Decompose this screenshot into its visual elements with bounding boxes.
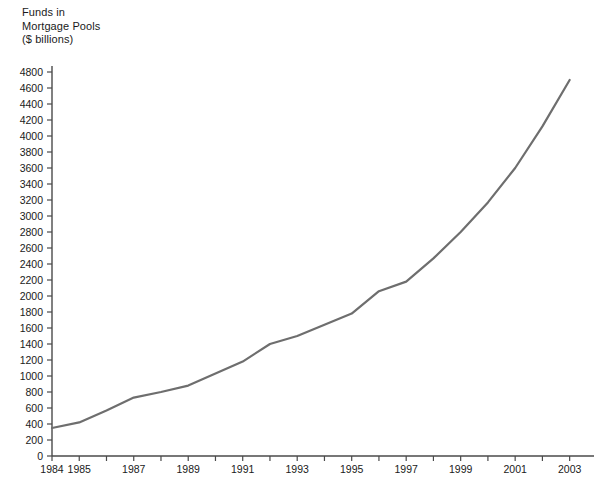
- chart-container: Funds in Mortgage Pools ($ billions) 020…: [0, 0, 598, 492]
- y-axis-tick-label: 0: [37, 450, 43, 462]
- data-series-group: [52, 80, 570, 428]
- y-axis-tick-label: 1000: [20, 370, 44, 382]
- x-axis-tick-label: 2003: [558, 463, 582, 475]
- y-axis-tick-label: 2600: [20, 242, 44, 254]
- data-series-line: [52, 80, 570, 428]
- line-chart-plot: 0200400600800100012001400160018002000220…: [0, 0, 598, 492]
- y-axis: 0200400600800100012001400160018002000220…: [20, 66, 52, 462]
- y-axis-tick-label: 2800: [20, 226, 44, 238]
- x-axis-tick-label: 1999: [449, 463, 473, 475]
- y-axis-tick-label: 1600: [20, 322, 44, 334]
- y-axis-tick-label: 4600: [20, 82, 44, 94]
- y-axis-tick-label: 4200: [20, 114, 44, 126]
- y-axis-tick-label: 2400: [20, 258, 44, 270]
- y-axis-tick-label: 3600: [20, 162, 44, 174]
- y-axis-tick-label: 3800: [20, 146, 44, 158]
- y-axis-tick-label: 1400: [20, 338, 44, 350]
- y-axis-tick-label: 200: [25, 434, 43, 446]
- y-axis-tick-label: 2000: [20, 290, 44, 302]
- y-axis-tick-label: 4800: [20, 66, 44, 78]
- x-axis-tick-label: 1984: [40, 463, 64, 475]
- y-axis-tick-label: 4000: [20, 130, 44, 142]
- y-axis-tick-label: 3000: [20, 210, 44, 222]
- x-axis-tick-label: 1993: [286, 463, 310, 475]
- y-axis-tick-label: 1200: [20, 354, 44, 366]
- x-axis-tick-label: 1991: [231, 463, 255, 475]
- y-axis-tick-label: 400: [25, 418, 43, 430]
- x-axis-tick-label: 2001: [503, 463, 527, 475]
- y-axis-tick-label: 3400: [20, 178, 44, 190]
- y-axis-tick-label: 2200: [20, 274, 44, 286]
- x-axis-tick-label: 1989: [177, 463, 201, 475]
- x-axis: 1984198519871989199119931995199719992001…: [40, 456, 594, 475]
- y-axis-tick-label: 600: [25, 402, 43, 414]
- x-axis-tick-label: 1985: [68, 463, 92, 475]
- x-axis-tick-label: 1997: [395, 463, 419, 475]
- y-axis-tick-label: 800: [25, 386, 43, 398]
- y-axis-tick-label: 1800: [20, 306, 44, 318]
- x-axis-tick-label: 1987: [122, 463, 146, 475]
- y-axis-tick-label: 3200: [20, 194, 44, 206]
- x-axis-tick-label: 1995: [340, 463, 364, 475]
- y-axis-tick-label: 4400: [20, 98, 44, 110]
